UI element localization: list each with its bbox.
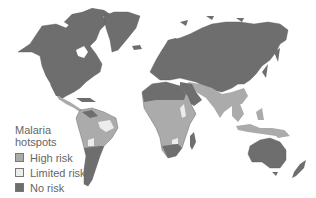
legend-title-line1: Malaria (15, 124, 86, 136)
high-risk-swatch (15, 153, 24, 162)
map-legend: Malaria hotspots High risk Limited risk … (15, 124, 86, 195)
legend-item-limited-risk: Limited risk (15, 165, 86, 180)
legend-label: High risk (30, 152, 73, 164)
legend-title-line2: hotspots (15, 136, 86, 148)
australia (248, 138, 286, 168)
new-zealand (292, 160, 306, 178)
legend-label: No risk (30, 182, 64, 194)
legend-label: Limited risk (30, 167, 86, 179)
legend-item-high-risk: High risk (15, 150, 86, 165)
north-america (18, 14, 108, 100)
no-risk-swatch (15, 183, 24, 192)
limited-risk-swatch (15, 168, 24, 177)
eurasia (150, 22, 288, 92)
legend-item-no-risk: No risk (15, 180, 86, 195)
